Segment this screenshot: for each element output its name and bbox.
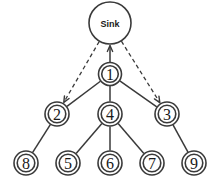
tree-diagram-svg: Sink124385679 [0,0,218,185]
node-n6[interactable]: 6 [98,151,122,175]
node-n9[interactable]: 9 [182,151,206,175]
node-n7-label: 7 [148,155,156,172]
node-n4[interactable]: 4 [98,102,122,126]
node-n8-label: 8 [22,155,30,172]
node-n6-label: 6 [106,155,114,172]
edge-sink-n3 [121,41,159,102]
node-n8[interactable]: 8 [14,151,38,175]
edge-sink-n2 [64,42,99,103]
edges-layer [33,41,188,153]
node-n3[interactable]: 3 [155,102,179,126]
edge-n1-n2 [67,81,100,106]
node-n9-label: 9 [190,155,198,172]
node-n2-label: 2 [53,106,61,123]
edge-n1-n3 [120,81,157,107]
node-n5[interactable]: 5 [56,151,80,175]
edge-n4-n7 [118,123,144,153]
node-n7[interactable]: 7 [140,151,164,175]
node-n3-label: 3 [163,106,171,123]
node-n1[interactable]: 1 [99,63,122,86]
edge-n4-n5 [76,123,102,153]
node-n2[interactable]: 2 [45,102,69,126]
node-sink[interactable]: Sink [89,2,131,44]
node-n4-label: 4 [106,106,114,123]
node-sink-label: Sink [100,19,120,29]
edge-n2-n8 [33,125,51,153]
diagram-canvas: Sink124385679 [0,0,218,185]
edge-n3-n9 [173,125,188,152]
node-n1-label: 1 [106,66,114,83]
node-n5-label: 5 [64,155,72,172]
